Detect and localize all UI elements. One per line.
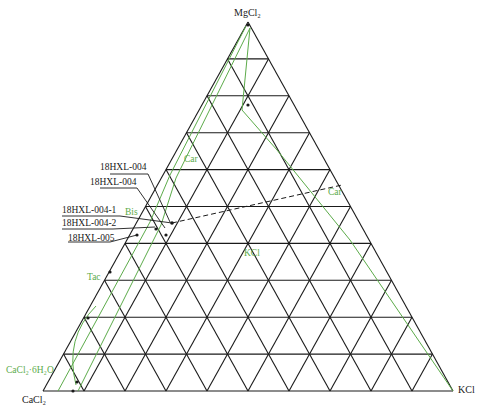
grid-line — [228, 59, 413, 391]
phase-label-bis: Bis — [125, 207, 138, 217]
grid-line — [105, 280, 167, 391]
sample-label-1: 18HXL-004 — [100, 162, 147, 172]
phase-label-kcl: KCl — [244, 248, 260, 258]
dashed-tie-line — [172, 185, 342, 223]
point — [164, 233, 167, 236]
grid-line — [146, 207, 249, 392]
point — [108, 270, 111, 273]
sample-label-2: 18HXL-004 — [90, 177, 137, 187]
point — [75, 380, 78, 383]
phase-label-car-upper: Car — [184, 154, 199, 164]
phase-label-tac: Tac — [87, 272, 101, 282]
sample-label-5: 18HXL-005 — [68, 233, 115, 243]
boundary-right — [242, 28, 453, 391]
grid-line — [187, 133, 331, 391]
phase-boundaries — [58, 26, 453, 391]
point — [71, 389, 74, 392]
phase-label-cacl2-6h2o: CaCl₂·6H₂O — [6, 365, 54, 375]
grid-line — [248, 207, 351, 392]
grid-line — [330, 280, 392, 391]
point — [86, 316, 89, 319]
grid-line — [412, 354, 433, 391]
point — [170, 221, 174, 225]
sample-label-4: 18HXL-004-2 — [62, 218, 117, 228]
vertex-label-left: CaCl₂ — [22, 394, 46, 405]
sample-label-3: 18HXL-004-1 — [62, 205, 117, 215]
vertex-label-top: MgCl₂ — [234, 7, 261, 18]
phase-label-car-right: Car — [328, 187, 343, 197]
ternary-phase-diagram: MgCl₂ CaCl₂ KCl Car Car Bis KCl Tac CaCl… — [0, 0, 485, 409]
point — [135, 233, 138, 236]
point — [246, 23, 249, 26]
vertex-label-right: KCl — [458, 384, 475, 395]
point — [154, 227, 157, 230]
grid-line — [166, 133, 310, 391]
point — [246, 103, 249, 106]
